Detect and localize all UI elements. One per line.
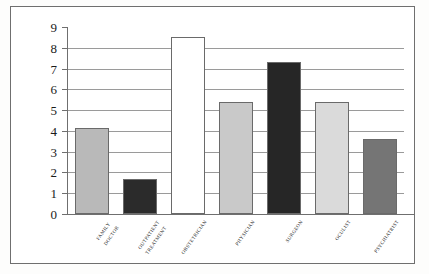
bar-psychiatrist[interactable] <box>363 139 398 214</box>
bar-oculist[interactable] <box>315 102 350 214</box>
bar-outpatient-treatment[interactable] <box>123 179 158 214</box>
category-label-line: Obstetrician <box>178 217 208 255</box>
y-tick-label-1: 1 <box>11 187 57 200</box>
x-axis-label-surgeon: Surgeon <box>283 218 305 244</box>
y-tick-label-6: 6 <box>11 83 57 96</box>
x-axis-label-psychiatrist: Psychiatrist <box>372 218 401 255</box>
gridline-0 <box>68 214 404 215</box>
y-tick-label-0: 0 <box>11 208 57 221</box>
y-tick-label-9: 9 <box>11 21 57 34</box>
y-tick-label-2: 2 <box>11 166 57 179</box>
chart-frame: 0123456789 FamilydoctorOutpatienttreatme… <box>10 6 415 264</box>
bar-obstetrician[interactable] <box>171 37 206 214</box>
y-tick-label-7: 7 <box>11 62 57 75</box>
category-label-line: Psychiatrist <box>371 217 401 254</box>
x-axis-label-family-doctor: Familydoctor <box>93 218 121 247</box>
category-label-line: Surgeon <box>282 217 304 244</box>
x-axis-label-outpatient-treatment: Outpatienttreatment <box>135 218 169 256</box>
bar-family-doctor[interactable] <box>75 128 110 214</box>
y-tick-label-8: 8 <box>11 41 57 54</box>
y-tick-label-3: 3 <box>11 145 57 158</box>
x-axis-label-obstetrician: Obstetrician <box>179 218 209 256</box>
y-tick-label-4: 4 <box>11 124 57 137</box>
category-label-line: Physician <box>232 217 256 247</box>
bar-surgeon[interactable] <box>267 62 302 214</box>
plot-area <box>68 27 404 214</box>
x-axis-label-physician: Physician <box>233 218 257 247</box>
x-axis-label-oculist: Oculist <box>332 218 353 242</box>
category-label-line: Oculist <box>332 217 353 241</box>
bar-physician[interactable] <box>219 102 254 214</box>
figure: 0123456789 FamilydoctorOutpatienttreatme… <box>0 0 429 274</box>
y-tick-label-5: 5 <box>11 104 57 117</box>
